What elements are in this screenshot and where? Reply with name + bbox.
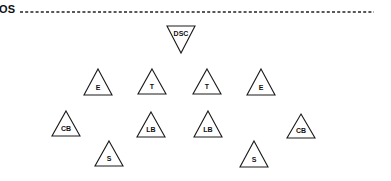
formation-diagram: OS DSCETTECBLBLBCBSS — [0, 0, 391, 181]
triangle-marker-icon — [240, 141, 268, 167]
player-label: CB — [296, 127, 306, 134]
triangle-marker-icon — [247, 69, 275, 95]
player-label: T — [205, 83, 210, 90]
player-left-end: E — [84, 69, 112, 95]
triangle-marker-icon — [193, 69, 221, 94]
triangle-marker-icon — [95, 141, 123, 166]
player-label: E — [259, 84, 264, 91]
player-deep-safety-center: DSC — [167, 26, 195, 53]
player-label: S — [252, 156, 257, 163]
triangle-marker-icon — [52, 111, 80, 136]
player-left-safety: S — [95, 141, 123, 166]
player-label: LB — [146, 126, 155, 133]
player-label: LB — [203, 126, 212, 133]
players-group: DSCETTECBLBLBCBSS — [52, 26, 315, 167]
triangle-marker-icon — [137, 112, 165, 137]
player-label: T — [150, 83, 155, 90]
field-canvas: DSCETTECBLBLBCBSS — [0, 0, 391, 181]
player-left-tackle: T — [138, 69, 166, 94]
player-label: E — [96, 84, 101, 91]
player-right-end: E — [247, 69, 275, 95]
player-right-tackle: T — [193, 69, 221, 94]
player-right-cornerback: CB — [287, 114, 315, 138]
triangle-marker-icon — [194, 111, 222, 137]
triangle-marker-icon — [138, 69, 166, 94]
player-right-safety: S — [240, 141, 268, 167]
triangle-marker-icon — [287, 114, 315, 138]
player-left-cornerback: CB — [52, 111, 80, 136]
player-left-linebacker: LB — [137, 112, 165, 137]
player-label: CB — [61, 125, 71, 132]
player-label: DSC — [174, 30, 189, 37]
player-label: S — [107, 155, 112, 162]
triangle-marker-icon — [84, 69, 112, 95]
player-right-linebacker: LB — [194, 111, 222, 137]
